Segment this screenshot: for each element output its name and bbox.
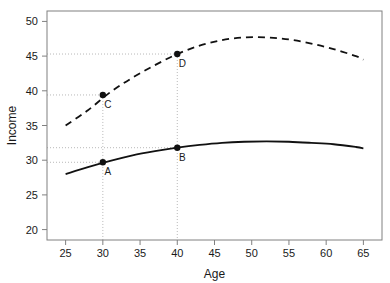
y-tick-label-45: 45 [26, 50, 38, 62]
point-label-A: A [104, 166, 111, 177]
data-point-B [174, 145, 180, 151]
y-tick-label-30: 30 [26, 154, 38, 166]
point-label-C: C [104, 99, 111, 110]
data-point-C [100, 92, 106, 98]
x-tick-label-35: 35 [134, 247, 146, 259]
plot-frame [47, 11, 382, 240]
x-tick-label-65: 65 [357, 247, 369, 259]
curve-dashed-curve [66, 37, 364, 125]
x-tick-label-50: 50 [246, 247, 258, 259]
y-tick-label-25: 25 [26, 189, 38, 201]
data-point-D [174, 51, 180, 57]
y-tick-label-20: 20 [26, 224, 38, 236]
x-axis-title: Age [204, 267, 226, 281]
x-tick-label-45: 45 [208, 247, 220, 259]
point-label-D: D [179, 58, 186, 69]
x-tick-label-30: 30 [97, 247, 109, 259]
y-tick-label-50: 50 [26, 15, 38, 27]
guide-lines-group [47, 54, 177, 240]
y-tick-label-35: 35 [26, 120, 38, 132]
x-tick-label-40: 40 [171, 247, 183, 259]
y-tick-label-40: 40 [26, 85, 38, 97]
data-point-A [100, 159, 106, 165]
x-tick-label-55: 55 [283, 247, 295, 259]
income-age-plot: 25303540455055606520253035404550 ABCD Ag… [0, 0, 390, 283]
x-tick-label-60: 60 [320, 247, 332, 259]
plot-frame-group [47, 11, 382, 240]
data-points-group: ABCD [100, 51, 186, 177]
axis-titles-group: AgeIncome [5, 106, 225, 281]
chart-container: 25303540455055606520253035404550 ABCD Ag… [0, 0, 390, 283]
axis-ticks-group: 25303540455055606520253035404550 [26, 15, 370, 259]
point-label-B: B [179, 152, 186, 163]
y-axis-title: Income [5, 106, 19, 146]
x-tick-label-25: 25 [59, 247, 71, 259]
